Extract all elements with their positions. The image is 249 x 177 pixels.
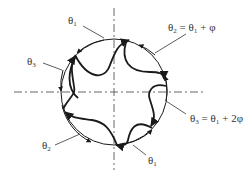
label-theta2-formula: θ2 = θ₁ + φ	[168, 22, 216, 35]
leader-lines	[43, 26, 186, 155]
label-theta3-left: θ3	[27, 56, 36, 69]
label-theta1-top: θ1	[68, 15, 77, 28]
label-theta1-bottom: θ1	[148, 155, 157, 168]
label-theta2-left: θ2	[42, 140, 51, 153]
star-arms	[63, 40, 166, 145]
label-theta3-formula: θ3 = θ₁ + 2φ	[190, 113, 243, 126]
